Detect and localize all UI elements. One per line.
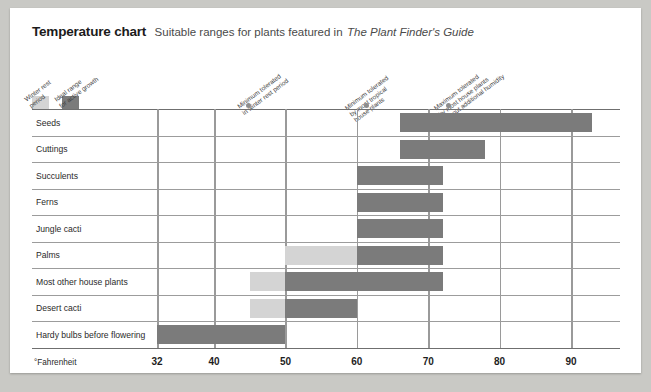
bar-ideal-range [357,166,443,185]
tick-label-70: 70 [423,356,434,367]
row-divider [32,189,620,190]
row-divider [32,295,620,296]
bar-winter-rest [250,272,286,291]
axis-unit-label: °Fahrenheit [34,358,76,367]
tick-label-90: 90 [565,356,576,367]
gridline-32 [157,109,159,348]
bar-ideal-range [400,140,486,159]
chart-plot-area: SeedsCuttingsSucculentsFernsJungle cacti… [32,109,620,352]
chart-subtitle-source: The Plant Finder's Guide [347,26,474,38]
row-label-jungle-cacti: Jungle cacti [36,224,81,234]
row-label-desert-cacti: Desert cacti [36,303,81,313]
chart-subtitle: Suitable ranges for plants featured in [155,26,343,38]
row-label-seeds: Seeds [36,118,60,128]
bar-ideal-range [357,193,443,212]
axis-baseline [32,348,620,349]
gridline-80 [500,109,502,348]
row-divider [32,215,620,216]
row-label-most-other-house-plants: Most other house plants [36,277,128,287]
tick-label-50: 50 [280,356,291,367]
bar-ideal-range [400,113,593,132]
tick-label-80: 80 [494,356,505,367]
bar-ideal-range [285,272,442,291]
chart-card: Temperature chart Suitable ranges for pl… [10,8,641,373]
row-label-ferns: Ferns [36,197,58,207]
bar-ideal-range [357,246,443,265]
screenshot-root: Temperature chart Suitable ranges for pl… [0,0,651,392]
annotation-dot-min-winter-rest [246,103,251,108]
bar-winter-rest [285,246,356,265]
chart-header: Temperature chart Suitable ranges for pl… [32,22,474,40]
annotation-dot-max-house-plants [446,103,451,108]
tick-label-32: 32 [151,356,162,367]
row-divider [32,136,620,137]
row-divider [32,242,620,243]
row-label-hardy-bulbs-before-flowering: Hardy bulbs before flowering [36,330,145,340]
gridline-90 [571,109,573,348]
row-label-palms: Palms [36,250,60,260]
bar-ideal-range [157,325,285,344]
plot-top-border [32,109,620,110]
bar-ideal-range [285,299,356,318]
row-divider [32,268,620,269]
tick-label-40: 40 [209,356,220,367]
row-divider [32,162,620,163]
row-divider [32,321,620,322]
gridline-40 [214,109,216,348]
annotation-dot-min-tropical [364,103,369,108]
tick-label-60: 60 [351,356,362,367]
row-label-succulents: Succulents [36,171,78,181]
bar-ideal-range [357,219,443,238]
bar-winter-rest [250,299,286,318]
row-label-cuttings: Cuttings [36,144,68,154]
page-title: Temperature chart [32,24,146,39]
